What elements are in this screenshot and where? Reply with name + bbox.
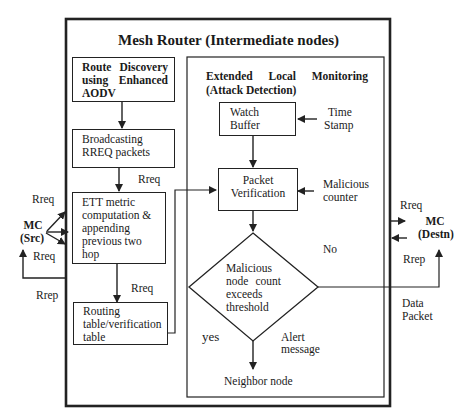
route-discovery-word5: AODV [82,87,116,100]
malicious-counter-line2: counter [323,191,357,204]
watch-buffer-box: Watch Buffer [219,102,296,136]
routing-line1: Routing [83,305,120,318]
time-stamp-line2: Stamp [324,119,353,132]
neighbor-node-label: Neighbor node [224,375,293,388]
broadcasting-line1: Broadcasting [82,133,143,146]
time-stamp-line1: Time [328,106,352,119]
route-discovery-word4: Enhanced [119,74,168,87]
route-discovery-word2: Discovery [119,61,168,74]
watch-buffer-line2: Buffer [230,119,260,132]
routing-line3: table [83,331,105,344]
packet-verification-line1: Packet [219,174,297,187]
label-rreq-dest: Rreq [400,199,422,212]
decision-line1: Malicious [226,262,272,275]
label-rreq-src-top: Rreq [32,193,54,206]
destination-mc-line2: (Destn) [418,228,454,241]
label-rreq-src-bottom: Rreq [33,250,55,263]
label-rreq-broadcast: Rreq [138,173,160,186]
decision-line4: threshold [226,301,269,314]
ett-box: ETT metric computation & appending previ… [72,192,166,264]
decision-line3: exceeds [226,288,262,301]
source-mc-line2: (Src) [17,232,47,245]
label-data-packet-2: Packet [402,310,433,323]
label-rrep-src: Rrep [36,289,58,302]
monitor-header-line2: (Attack Detection) [206,84,296,97]
route-discovery-word3: using [82,74,108,87]
monitor-header-word1: Extended [206,70,253,83]
destination-mc-line1: MC [420,215,450,228]
broadcasting-line2: RREQ packets [82,146,150,159]
broadcasting-box: Broadcasting RREQ packets [72,129,175,168]
ett-line1: ETT metric [82,196,135,209]
watch-buffer-line1: Watch [230,106,259,119]
packet-verification-line2: Verification [219,187,297,200]
arrow-src-3 [46,233,65,244]
alert-line2: message [281,343,320,356]
ett-line4: previous two [82,235,142,248]
ett-line2: computation & [82,209,151,222]
label-yes: yes [202,330,219,343]
label-rrep-dest: Rrep [403,253,425,266]
ett-line3: appending [82,222,130,235]
source-mc-line1: MC [21,219,45,232]
monitor-header-word3: Monitoring [312,70,368,83]
packet-verification-box: Packet Verification [218,168,298,211]
diagram-title: Mesh Router (Intermediate nodes) [66,32,391,49]
ett-line5: hop [82,248,99,261]
label-data-packet-1: Data [402,297,424,310]
malicious-counter-line1: Malicious [323,178,369,191]
decision-word-node: node [226,275,248,288]
connector-routing-to-verification [168,190,216,333]
route-discovery-word1: Route [82,61,111,74]
decision-word-count: count [255,275,281,288]
monitor-header-word2: Local [268,70,295,83]
route-discovery-box: Route Discovery using Enhanced AODV [72,57,175,102]
label-no: No [323,243,337,256]
routing-table-box: Routing table/verification table [73,302,168,345]
routing-line2: table/verification [83,318,162,331]
label-rreq-ett-out: Rreq [131,282,153,295]
arrow-src-1 [47,212,65,231]
